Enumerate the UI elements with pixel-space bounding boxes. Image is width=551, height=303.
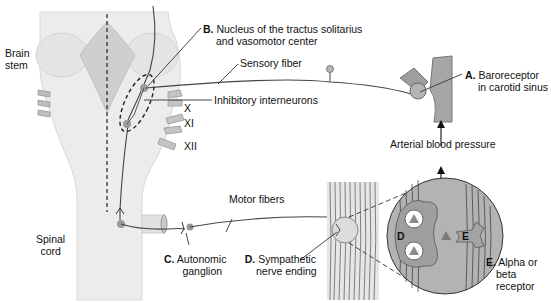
receptor-line2: beta	[486, 268, 537, 280]
spinal-cord-line2: cord	[36, 245, 65, 257]
left-cranial-roots	[38, 90, 50, 117]
nerve-ending-label: D. Sympathetic nerve ending	[244, 253, 317, 277]
nucleus-letter: B.	[203, 23, 214, 35]
ganglion-label: C. Autonomic ganglion	[164, 253, 226, 277]
receptor-line3: receptor	[486, 280, 537, 292]
nucleus-label: B. Nucleus of the tractus solitarius and…	[203, 23, 362, 47]
brain-stem-line1: Brain	[5, 47, 30, 59]
ganglion-line1: Autonomic	[177, 253, 227, 265]
nerve-ending-line1: Sympathetic	[258, 253, 316, 265]
receptor-line1: Alpha or	[498, 256, 537, 268]
receptor-label: E. Alpha or beta receptor	[486, 256, 537, 292]
motor-fibers-label: Motor fibers	[229, 193, 284, 205]
nucleus-line1: Nucleus of the tractus solitarius	[216, 23, 362, 35]
brain-stem-line2: stem	[5, 59, 30, 71]
nucleus-line2: and vasomotor center	[203, 35, 362, 47]
baroreceptor-label: A. Baroreceptor in carotid sinus	[465, 69, 548, 93]
nerve-ending-line2: nerve ending	[244, 265, 317, 277]
arterial-blood-pressure-label: Arterial blood pressure	[390, 138, 496, 150]
ganglion-letter: C.	[164, 253, 175, 265]
cranial-nerve-xii-label: XII	[184, 140, 197, 152]
cranial-nerve-x-label: X	[184, 102, 191, 114]
baroreceptor-line2: in carotid sinus	[465, 81, 548, 93]
baroreceptor-line1: Baroreceptor	[478, 69, 539, 81]
nerve-ending-letter: D.	[245, 253, 256, 265]
cranial-nerve-xi-label: XI	[184, 117, 194, 129]
baroreceptor-letter: A.	[465, 69, 476, 81]
baroreceptor-reflex-diagram: Brain stem Spinal cord B. Nucleus of the…	[0, 0, 551, 303]
receptor-letter: E.	[486, 256, 496, 268]
brain-stem-label: Brain stem	[5, 47, 30, 71]
spinal-cord-label: Spinal cord	[36, 233, 65, 257]
carotid-artery	[430, 56, 452, 122]
sensory-fiber	[146, 80, 411, 94]
inset-e-label: E	[462, 230, 469, 242]
inhibitory-interneurons-label: Inhibitory interneurons	[214, 94, 318, 106]
spinal-cord-line1: Spinal	[36, 233, 65, 245]
ganglion-line2: ganglion	[164, 265, 226, 277]
sensory-fiber-label: Sensory fiber	[240, 57, 302, 69]
inset-d-label: D	[397, 230, 405, 242]
